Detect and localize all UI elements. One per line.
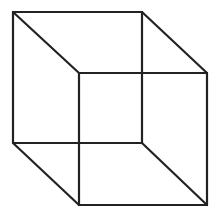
edge [13, 12, 79, 73]
edge [142, 143, 207, 205]
connecting-edges [13, 12, 207, 205]
edge [142, 12, 207, 73]
edge [13, 143, 79, 205]
necker-cube-diagram [0, 0, 222, 219]
square-top-left [13, 12, 142, 143]
